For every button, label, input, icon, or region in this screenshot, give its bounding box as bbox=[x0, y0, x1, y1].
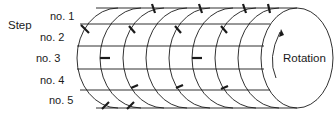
tick-mark bbox=[81, 25, 89, 33]
step-label-3: no. 3 bbox=[36, 53, 60, 64]
rotating-cylinder-diagram: Step no. 1 no. 2 no. 3 no. 4 no. 5 Rotat… bbox=[0, 0, 336, 114]
step-label-5: no. 5 bbox=[49, 95, 73, 106]
arc-8 bbox=[238, 8, 279, 108]
step-label-4: no. 4 bbox=[40, 75, 64, 86]
tick-mark bbox=[176, 85, 183, 88]
tick-mark bbox=[199, 4, 202, 13]
tick-mark bbox=[243, 4, 246, 13]
tick-mark bbox=[152, 4, 155, 13]
rotation-label: Rotation bbox=[283, 53, 326, 65]
step-label-1: no. 1 bbox=[50, 11, 74, 22]
tick-mark bbox=[131, 85, 138, 88]
step-title-label: Step bbox=[8, 20, 32, 32]
step-label-2: no. 2 bbox=[40, 32, 64, 43]
tick-mark bbox=[268, 4, 270, 13]
rotation-arrow bbox=[272, 32, 280, 78]
